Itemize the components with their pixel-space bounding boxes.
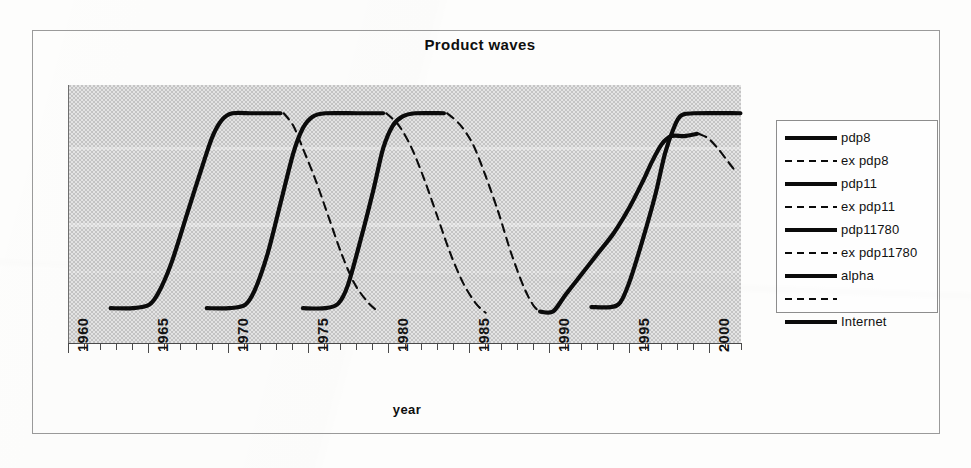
x-tick-major [68,343,69,353]
x-tick-minor [260,343,261,350]
legend-item-label: pdp8 [841,130,871,145]
legend-item-label: ex pdp8 [841,153,889,168]
x-tick-label: 1970 [235,318,251,352]
x-tick-minor [517,343,518,350]
legend-item-label: ex pdp11780 [841,245,917,260]
dashed-line-icon [785,248,837,258]
series-plot [69,85,742,343]
x-tick-label: 1975 [315,318,331,352]
x-tick-minor [116,343,117,350]
x-tick-major [388,343,389,353]
x-tick-minor [437,343,438,350]
x-tick-label: 1995 [636,318,652,352]
series-line-pdp8 [111,113,281,309]
chart-title: Product waves [360,36,600,53]
legend-item[interactable]: ex pdp8 [777,149,937,172]
x-tick-label: 1985 [476,318,492,352]
x-tick-label: 1990 [556,318,572,352]
solid-line-icon [785,317,837,327]
x-tick-major [469,343,470,353]
legend-item[interactable]: alpha [777,264,937,287]
series-line-ex-pdp11780 [447,113,540,311]
legend-item[interactable]: ex pdp11780 [777,241,937,264]
x-tick-minor [613,343,614,350]
series-line-alpha [540,134,697,313]
legend-item[interactable]: pdp11 [777,172,937,195]
solid-line-icon [785,133,837,143]
x-tick-major [148,343,149,353]
solid-line-icon [785,179,837,189]
legend-item[interactable]: pdp11780 [777,218,937,241]
legend-item[interactable]: ex pdp11 [777,195,937,218]
x-tick-minor [292,343,293,350]
legend-item-label: Internet [841,314,887,329]
x-axis-title: year [332,402,482,417]
solid-line-icon [785,271,837,281]
x-tick-minor [501,343,502,350]
legend-item-label: alpha [841,268,874,283]
x-tick-minor [340,343,341,350]
x-tick-label: 1980 [395,318,411,352]
x-tick-label: 1965 [155,318,171,352]
x-tick-minor [372,343,373,350]
plot-area [68,85,741,343]
x-tick-minor [100,343,101,350]
legend-item-label: pdp11 [841,176,877,191]
x-tick-minor [597,343,598,350]
solid-line-icon [785,225,837,235]
legend-item[interactable]: pdp8 [777,126,937,149]
dashed-line-icon [785,156,837,166]
x-tick-label: 2000 [716,318,732,352]
x-tick-minor [212,343,213,350]
x-tick-minor [196,343,197,350]
x-tick-minor [421,343,422,350]
x-tick-minor [677,343,678,350]
x-tick-label: 1960 [75,318,91,352]
dashed-line-icon [785,202,837,212]
x-tick-minor [661,343,662,350]
legend-item-label: pdp11780 [841,222,899,237]
x-tick-major [629,343,630,353]
x-tick-minor [581,343,582,350]
legend-item-label: ex pdp11 [841,199,895,214]
legend-item[interactable] [777,287,937,310]
series-line-unnamed [699,134,736,172]
dashed-line-icon [785,294,837,304]
series-line-pdp11780 [303,113,444,308]
x-tick-minor [180,343,181,350]
x-tick-major [228,343,229,353]
series-line-ex-pdp11 [386,113,485,313]
legend-item[interactable]: Internet [777,310,937,333]
x-tick-minor [132,343,133,350]
x-tick-minor [276,343,277,350]
x-tick-major [308,343,309,353]
x-tick-minor [741,343,742,350]
chart-legend: pdp8ex pdp8pdp11ex pdp11pdp11780ex pdp11… [776,120,938,313]
x-tick-minor [453,343,454,350]
x-tick-minor [693,343,694,350]
x-tick-minor [356,343,357,350]
x-tick-major [709,343,710,353]
x-tick-minor [533,343,534,350]
x-tick-major [549,343,550,353]
series-line-pdp11 [207,113,383,308]
